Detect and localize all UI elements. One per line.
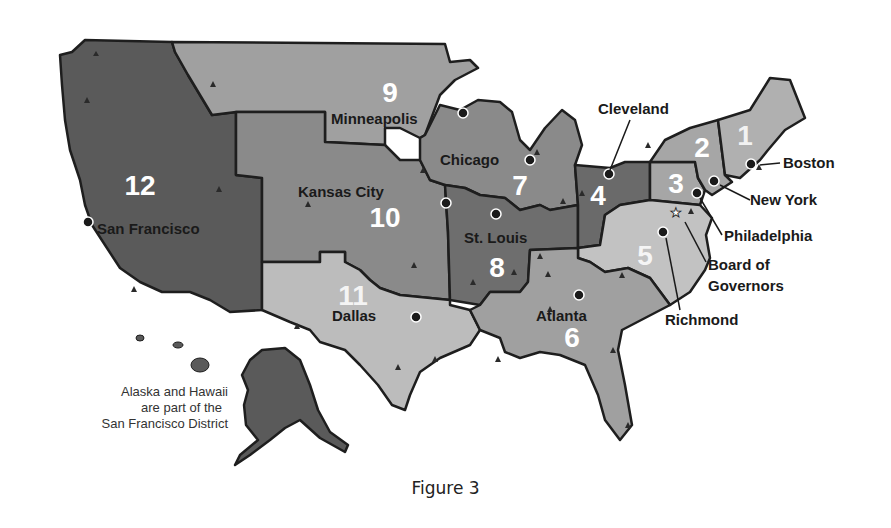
district-number-3: 3 xyxy=(668,168,684,199)
district-number-6: 6 xyxy=(564,322,580,353)
city-label-chicago: Chicago xyxy=(440,151,499,168)
hawaii-island-small xyxy=(136,335,144,341)
alaska-region xyxy=(235,348,348,465)
city-dot-atlanta xyxy=(574,290,584,300)
district-number-8: 8 xyxy=(489,252,505,283)
city-dot-boston xyxy=(746,159,756,169)
district-number-7: 7 xyxy=(512,170,528,201)
city-label-cleveland: Cleveland xyxy=(598,100,669,117)
city-label-atlanta: Atlanta xyxy=(536,307,587,324)
city-label-dallas: Dallas xyxy=(332,307,376,324)
leader-line-boston xyxy=(760,163,780,165)
federal-reserve-district-map: 12 9 10 11 7 8 4 3 2 1 5 6 ★ xyxy=(0,0,891,528)
city-dot-philadelphia xyxy=(692,188,702,198)
city-dot-san-francisco xyxy=(83,217,93,227)
district-number-12: 12 xyxy=(124,170,155,201)
district-number-4: 4 xyxy=(590,180,606,211)
hawaii-island xyxy=(191,358,209,372)
district-number-5: 5 xyxy=(637,240,653,271)
branch-triangle-icon xyxy=(495,356,501,362)
branch-triangle-icon xyxy=(645,142,651,148)
note-line-2: are part of the xyxy=(141,400,222,415)
city-dot-chicago xyxy=(525,155,535,165)
branch-triangle-icon xyxy=(131,286,137,292)
figure-caption: Figure 3 xyxy=(0,478,891,498)
city-label-san-francisco: San Francisco xyxy=(97,220,200,237)
city-dot-new-york xyxy=(709,176,719,186)
board-of-governors-star-icon: ★ xyxy=(670,205,682,220)
city-label-board-line-1: Board of xyxy=(708,256,771,273)
city-label-philadelphia: Philadelphia xyxy=(724,227,813,244)
city-label-minneapolis: Minneapolis xyxy=(331,110,418,127)
city-dot-dallas xyxy=(411,312,421,322)
city-dot-minneapolis xyxy=(458,108,468,118)
city-dot-st-louis xyxy=(491,209,501,219)
hawaii-island-small xyxy=(173,342,183,348)
city-dot-kansas-city xyxy=(441,198,451,208)
district-number-2: 2 xyxy=(694,132,710,163)
note-line-1: Alaska and Hawaii xyxy=(121,384,228,399)
district-number-9: 9 xyxy=(382,77,398,108)
city-label-kansas-city: Kansas City xyxy=(298,183,385,200)
city-label-richmond: Richmond xyxy=(665,311,738,328)
city-label-new-york: New York xyxy=(750,191,818,208)
city-dot-cleveland xyxy=(604,169,614,179)
city-dot-richmond xyxy=(658,227,668,237)
leader-line-new-york xyxy=(720,185,750,200)
district-number-10: 10 xyxy=(369,202,400,233)
note-line-3: San Francisco District xyxy=(102,416,229,431)
district-number-1: 1 xyxy=(737,120,753,151)
city-label-board-line-2: Governors xyxy=(708,277,784,294)
city-label-boston: Boston xyxy=(783,154,835,171)
city-label-st-louis: St. Louis xyxy=(464,229,527,246)
